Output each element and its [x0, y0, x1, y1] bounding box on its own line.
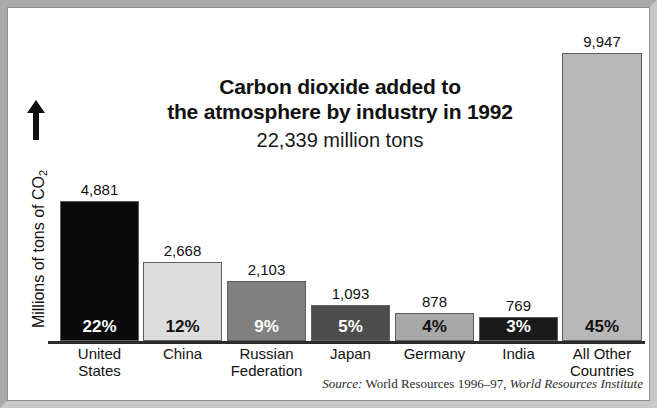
bar-group: 1,0935%: [311, 305, 390, 341]
bar-group: 7693%: [479, 317, 558, 341]
bar-percent-label: 9%: [227, 317, 306, 337]
bar-group: 4,88122%: [60, 201, 139, 341]
source-publisher: World Resources Institute: [510, 376, 643, 391]
bar-percent-label: 5%: [311, 317, 390, 337]
bar: [562, 53, 642, 341]
category-label-line: Federation: [215, 362, 318, 379]
bar-value-label: 769: [465, 297, 572, 314]
bar-percent-label: 45%: [562, 317, 642, 337]
source-prefix: Source:: [322, 376, 362, 391]
category-label: All OtherCountries: [550, 345, 654, 379]
source-work: World Resources 1996–97,: [366, 376, 507, 391]
bar-group: 9,94745%: [562, 53, 642, 341]
co2-bar-chart-figure: Carbon dioxide added to the atmosphere b…: [0, 0, 657, 408]
source-note: Source: World Resources 1996–97, World R…: [322, 376, 643, 392]
bar-value-label: 4,881: [46, 181, 153, 198]
plot-area: 4,88122%2,66812%2,1039%1,0935%8784%7693%…: [0, 0, 657, 341]
bar-percent-label: 12%: [143, 317, 222, 337]
category-label-line: All Other: [550, 345, 654, 362]
bar-value-label: 9,947: [548, 33, 656, 50]
bar-value-label: 2,103: [213, 261, 320, 278]
bar-group: 2,66812%: [143, 262, 222, 341]
bar-percent-label: 22%: [60, 317, 139, 337]
bar-percent-label: 4%: [395, 317, 474, 337]
bar-group: 2,1039%: [227, 281, 306, 341]
x-axis-line: [48, 341, 645, 344]
bar-group: 8784%: [395, 313, 474, 341]
bar-percent-label: 3%: [479, 317, 558, 337]
category-label-line: States: [48, 362, 151, 379]
bar-value-label: 2,668: [129, 242, 236, 259]
